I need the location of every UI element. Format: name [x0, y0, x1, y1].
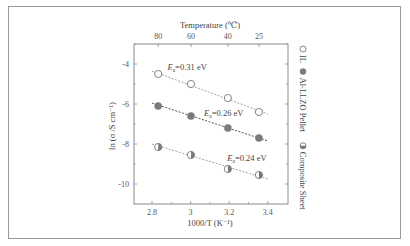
legend-marker	[300, 69, 306, 75]
x-axis-title: 1000/T (K⁻¹)	[187, 218, 233, 228]
data-point	[155, 102, 162, 109]
data-point	[224, 124, 231, 131]
data-point	[255, 108, 262, 115]
y-tick-label: -8	[122, 140, 129, 149]
activation-energy-label: Ea=0.26 eV	[203, 108, 244, 119]
top-axis-title: Temperature (℃)	[180, 20, 240, 30]
data-point	[255, 171, 262, 178]
y-axis-title: ln (σ /S cm⁻¹)	[107, 102, 117, 150]
data-point	[155, 70, 162, 77]
legend-label: Composite Sheet	[298, 152, 308, 210]
data-point	[224, 165, 231, 172]
fit-line-il	[152, 71, 268, 114]
y-tick-label: -10	[118, 180, 129, 189]
arrhenius-chart: 2.833.23.4-4-6-8-1080604025 Ea=0.31 eVEa…	[0, 0, 410, 246]
legend-group: ILAl-LLZO PelletComposite Sheet	[298, 46, 308, 210]
y-tick-label: -4	[122, 60, 129, 69]
data-point	[155, 143, 162, 150]
data-point	[187, 151, 194, 158]
top-tick-label: 25	[255, 32, 263, 41]
legend: ILAl-LLZO PelletComposite Sheet	[298, 46, 308, 210]
top-tick-label: 40	[224, 32, 232, 41]
fit-line-al-llzo-pellet	[152, 103, 268, 141]
top-tick-label: 80	[154, 32, 162, 41]
legend-label: Al-LLZO Pellet	[298, 78, 308, 133]
plot-box	[134, 44, 288, 204]
data-point	[224, 94, 231, 101]
legend-marker	[300, 46, 306, 52]
legend-marker	[300, 143, 306, 149]
annotations: Ea=0.31 eVEa=0.26 eVEa=0.24 eV	[166, 62, 267, 164]
data-point	[255, 134, 262, 141]
x-tick-label: 3.4	[263, 208, 273, 217]
y-tick-label: -6	[122, 100, 129, 109]
x-tick-label: 2.8	[147, 208, 157, 217]
data-point	[187, 112, 194, 119]
activation-energy-label: Ea=0.24 eV	[226, 153, 267, 164]
activation-energy-label: Ea=0.31 eV	[166, 62, 207, 73]
x-tick-label: 3	[189, 208, 193, 217]
data-point	[187, 80, 194, 87]
axes: 2.833.23.4-4-6-8-1080604025	[118, 32, 288, 217]
legend-label: IL	[298, 55, 308, 63]
top-tick-label: 60	[187, 32, 195, 41]
x-tick-label: 3.2	[224, 208, 234, 217]
